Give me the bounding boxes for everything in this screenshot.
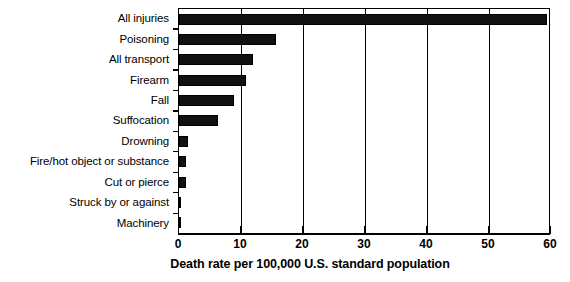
bar-row[interactable] [179,172,549,192]
y-tick [173,131,179,132]
category-label-text: Poisoning [119,33,169,45]
bar[interactable] [179,14,547,25]
category-label-suffocation: Suffocation [0,110,174,130]
x-tick-30 [364,226,365,234]
bar-row[interactable] [179,131,549,151]
category-label-machinery: Machinery [0,213,174,233]
x-tick-60 [550,226,551,234]
category-label-text: Drowning [121,135,169,147]
category-label-drowning: Drowning [0,131,174,151]
category-label-fall: Fall [0,90,174,110]
category-label-text: All transport [109,53,169,65]
bar-row[interactable] [179,90,549,110]
bar[interactable] [179,156,186,167]
category-label-text: Suffocation [113,114,169,126]
category-label-struck-by-or-against: Struck by or against [0,192,174,212]
bar[interactable] [179,197,181,208]
bar-row[interactable] [179,152,549,172]
category-label-fire-hot-object: Fire/hot object or substance [0,151,174,171]
category-label-firearm: Firearm [0,69,174,89]
y-tick [173,213,179,214]
y-tick [173,28,179,29]
category-label-text: Struck by or against [69,196,169,208]
bar-row[interactable] [179,29,549,49]
bar-row[interactable] [179,50,549,70]
category-label-text: All injuries [118,12,169,24]
category-label-text: Cut or pierce [104,176,169,188]
category-label-all-transport: All transport [0,49,174,69]
bar-chart: All injuries Poisoning All transport Fir… [0,0,570,282]
y-tick [173,69,179,70]
bar[interactable] [179,75,246,86]
plot-area [178,8,550,233]
y-tick [173,151,179,152]
y-tick [173,172,179,173]
category-label-cut-or-pierce: Cut or pierce [0,172,174,192]
x-tick-label: 10 [233,237,246,251]
x-tick-label: 0 [175,237,182,251]
category-axis-labels: All injuries Poisoning All transport Fir… [0,8,174,233]
y-tick [173,192,179,193]
y-tick [173,110,179,111]
category-label-text: Machinery [117,217,169,229]
bar[interactable] [179,217,181,228]
bar-row[interactable] [179,70,549,90]
x-tick-label: 30 [357,237,370,251]
bar-row[interactable] [179,192,549,212]
bar[interactable] [179,136,188,147]
category-label-all-injuries: All injuries [0,8,174,28]
category-label-text: Firearm [130,74,169,86]
x-tick-label: 20 [295,237,308,251]
bar[interactable] [179,177,186,188]
x-tick-label: 60 [543,237,556,251]
category-label-text: Fire/hot object or substance [30,155,169,167]
category-label-poisoning: Poisoning [0,28,174,48]
x-tick-40 [426,226,427,234]
bar[interactable] [179,54,253,65]
bar-row[interactable] [179,9,549,29]
y-tick [173,90,179,91]
x-tick-10 [240,226,241,234]
bar[interactable] [179,115,218,126]
x-tick-50 [488,226,489,234]
bar[interactable] [179,34,276,45]
x-axis-title: Death rate per 100,000 U.S. standard pop… [0,257,570,271]
x-tick-label: 40 [419,237,432,251]
bar-row[interactable] [179,111,549,131]
category-label-text: Fall [151,94,169,106]
x-tick-label: 50 [481,237,494,251]
bar[interactable] [179,95,234,106]
x-tick-20 [302,226,303,234]
bars-layer [179,9,549,233]
y-tick [173,49,179,50]
